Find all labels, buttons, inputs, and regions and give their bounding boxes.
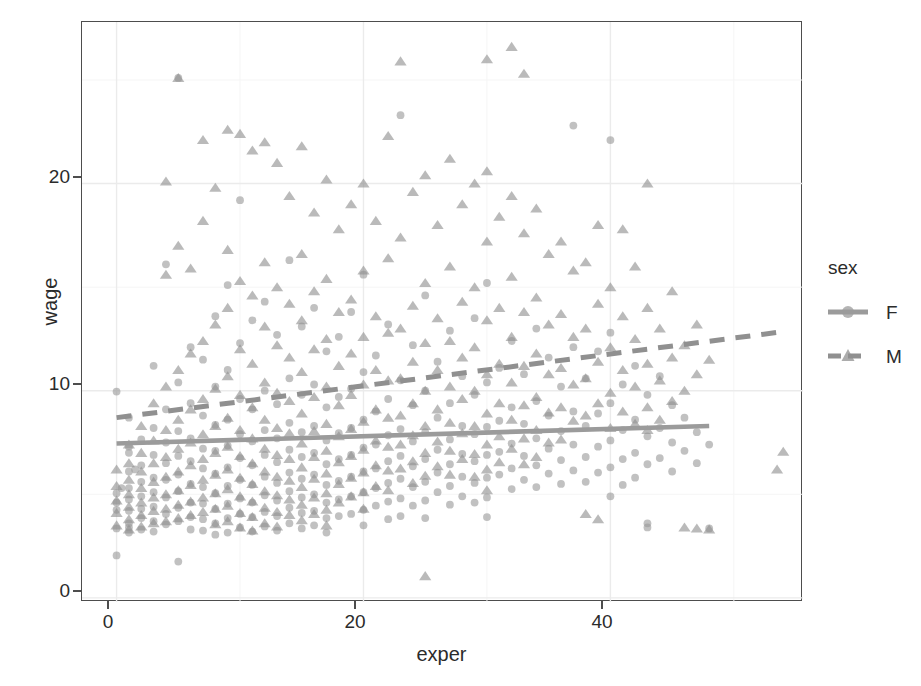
y-tickmark-10 — [73, 383, 81, 385]
legend-item-f[interactable]: F — [826, 295, 921, 329]
x-tick-label-40: 40 — [572, 612, 632, 631]
x-axis-ticks: 0 20 40 — [0, 612, 921, 642]
y-tick-label-10: 10 — [36, 374, 70, 393]
x-tickmark-20 — [354, 601, 356, 609]
y-tick-label-0: 0 — [36, 581, 70, 600]
legend-label-f: F — [886, 303, 898, 322]
y-tickmark-20 — [73, 176, 81, 178]
y-axis-title: wage — [39, 242, 62, 362]
plot-canvas — [82, 22, 803, 602]
x-tickmark-0 — [107, 601, 109, 609]
x-axis-title: exper — [81, 643, 802, 666]
legend-key-f — [826, 297, 870, 327]
x-tick-label-20: 20 — [325, 612, 385, 631]
plot-panel — [81, 21, 802, 601]
legend-title: sex — [828, 258, 921, 277]
y-tick-label-20: 20 — [36, 167, 70, 186]
scatter-points-m — [110, 42, 789, 580]
y-tickmark-0 — [73, 590, 81, 592]
legend: sex F M — [826, 258, 921, 383]
x-tickmark-40 — [601, 601, 603, 609]
legend-key-m — [826, 341, 870, 371]
legend-label-m: M — [886, 347, 902, 366]
legend-item-m[interactable]: M — [826, 339, 921, 373]
x-tick-label-0: 0 — [78, 612, 138, 631]
chart-root: { "chart_data": { "type": "scatter", "ti… — [0, 0, 921, 686]
